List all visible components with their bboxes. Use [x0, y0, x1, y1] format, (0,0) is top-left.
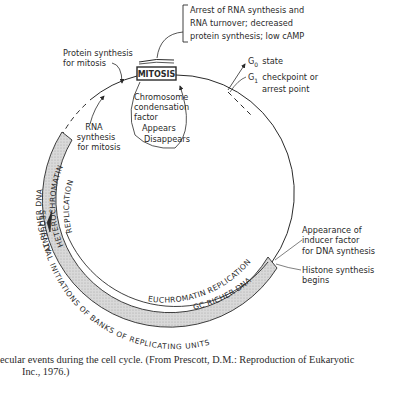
- top-note-line-3: protein synthesis; low cAMP: [190, 31, 304, 41]
- protein-synthesis-line-2: for mitosis: [63, 58, 106, 68]
- sequential-initiations-label: SEQUENTIAL INITIATIONS OF BANKS OF REPLI…: [38, 210, 211, 351]
- inducer-note: Appearance of inducer factor for DNA syn…: [275, 225, 375, 260]
- figure-caption: ecular events during the cell cycle. (Fr…: [0, 354, 398, 378]
- caption-line-1: ecular events during the cell cycle. (Fr…: [0, 354, 398, 366]
- rna-synthesis-note: RNA synthesis for mitosis: [77, 96, 121, 152]
- mitosis-box: MITOSIS: [137, 59, 176, 80]
- svg-text:G1checkpoint or: G1checkpoint or: [248, 72, 319, 84]
- inducer-line-3: for DNA synthesis: [302, 246, 375, 256]
- histone-line-2: begins: [302, 275, 329, 285]
- svg-text:G0state: G0state: [248, 56, 283, 68]
- chromosome-line-3: factor: [134, 112, 159, 122]
- inducer-line-2: inducer factor: [302, 235, 360, 245]
- inducer-line-1: Appearance of: [302, 225, 363, 235]
- chromosome-factor-note: Chromosome condensation factor Appears D…: [131, 82, 190, 148]
- top-note-line-1: Arrest of RNA synthesis and: [190, 5, 304, 15]
- g1-line-2: arrest point: [262, 84, 310, 94]
- histone-line-1: Histone synthesis: [302, 265, 374, 275]
- rna-line-1: RNA: [85, 122, 103, 132]
- top-note: Arrest of RNA synthesis and RNA turnover…: [157, 5, 304, 58]
- top-note-line-2: RNA turnover; decreased: [190, 18, 293, 28]
- replication-label: REPLICATION: [62, 179, 75, 235]
- histone-note: Histone synthesis begins: [276, 264, 374, 285]
- chromosome-disappears: Disappears: [144, 134, 190, 144]
- chromosome-appears: Appears: [142, 123, 176, 133]
- protein-synthesis-line-1: Protein synthesis: [63, 48, 133, 58]
- rna-line-2: synthesis: [77, 132, 116, 142]
- rna-line-3: for mitosis: [77, 142, 120, 152]
- protein-synthesis-note: Protein synthesis for mitosis: [63, 48, 133, 83]
- g0-g1-notes: G0state G1checkpoint or arrest point: [228, 56, 319, 116]
- mitosis-label: MITOSIS: [138, 70, 176, 79]
- chromosome-line-2: condensation: [134, 102, 189, 112]
- chromosome-line-1: Chromosome: [134, 92, 188, 102]
- caption-line-2: Inc., 1976.): [0, 366, 398, 378]
- cell-cycle-diagram: MITOSIS Arrest of RNA synthesis and RNA …: [0, 0, 398, 399]
